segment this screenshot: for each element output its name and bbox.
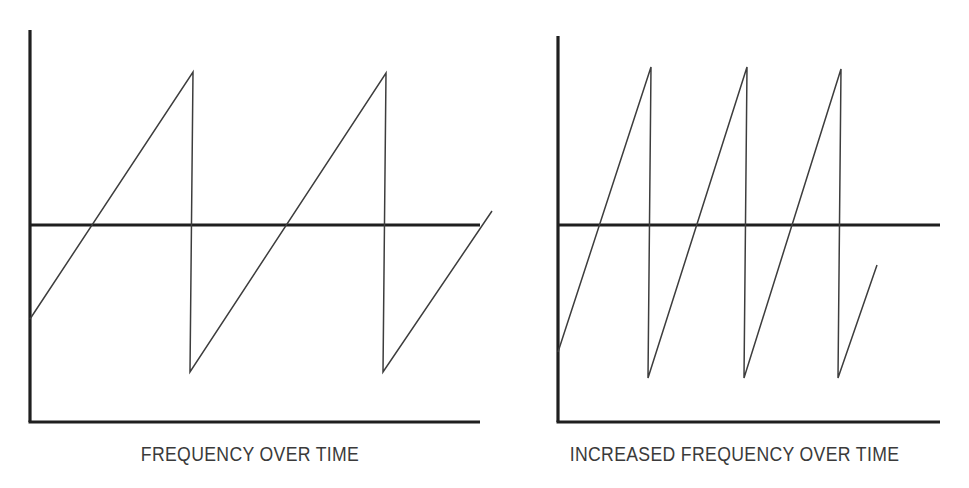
sawtooth-waveform-left-chart: [30, 72, 492, 372]
frequency-comparison-figure: FREQUENCY OVER TIME INCREASED FREQUENCY …: [0, 0, 969, 488]
sawtooth-waveform-right-chart: [558, 67, 877, 378]
caption-increased-frequency-over-time: INCREASED FREQUENCY OVER TIME: [538, 441, 932, 467]
caption-frequency-over-time: FREQUENCY OVER TIME: [40, 441, 460, 467]
chart-panel-frequency-over-time: FREQUENCY OVER TIME: [0, 0, 500, 488]
chart-panel-increased-frequency-over-time: INCREASED FREQUENCY OVER TIME: [500, 0, 969, 488]
frequency-over-time-plot: [0, 0, 500, 440]
increased-frequency-over-time-plot: [500, 0, 969, 440]
